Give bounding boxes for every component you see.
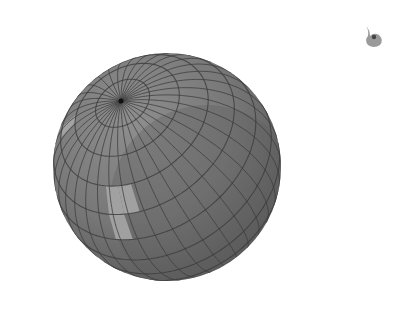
sphere-render: [0, 0, 411, 330]
pole-point: [119, 99, 124, 104]
paint-blob-icon: [366, 26, 382, 47]
sphere: [53, 53, 304, 299]
